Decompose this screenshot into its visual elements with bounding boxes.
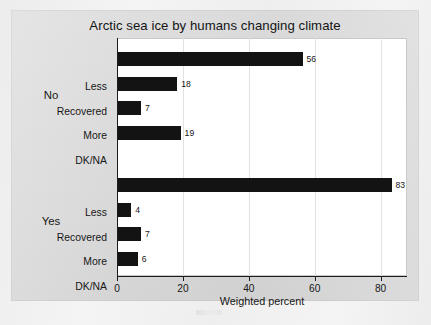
chart-title: Arctic sea ice by humans changing climat… bbox=[11, 18, 419, 33]
category-label-dk-na: DK/NA bbox=[7, 155, 107, 167]
bar-row: 4 bbox=[117, 203, 407, 217]
bar-value-label: 4 bbox=[135, 204, 140, 216]
bar[interactable] bbox=[118, 126, 181, 140]
x-tick-mark bbox=[117, 277, 118, 281]
x-axis-title: Weighted percent bbox=[117, 295, 407, 307]
bar[interactable] bbox=[118, 178, 392, 192]
bar[interactable] bbox=[118, 101, 141, 115]
bar[interactable] bbox=[118, 77, 177, 91]
x-tick-mark bbox=[315, 277, 316, 281]
value-axis-spine bbox=[117, 276, 407, 277]
plot-area: 561871983476 bbox=[117, 38, 407, 276]
x-tick-label: 80 bbox=[366, 282, 396, 295]
bar-row: 19 bbox=[117, 126, 407, 140]
bar[interactable] bbox=[118, 52, 303, 66]
scan-artifact bbox=[196, 310, 222, 315]
category-label-recovered: Recovered bbox=[7, 232, 107, 244]
x-tick-mark bbox=[249, 277, 250, 281]
x-tick-label: 60 bbox=[300, 282, 330, 295]
bar[interactable] bbox=[118, 203, 131, 217]
bar-value-label: 7 bbox=[145, 102, 150, 114]
bar-value-label: 6 bbox=[142, 253, 147, 265]
chart-figure-panel: Arctic sea ice by humans changing climat… bbox=[11, 10, 419, 301]
x-tick-label: 0 bbox=[102, 282, 132, 295]
bar-value-label: 56 bbox=[307, 53, 317, 65]
bar-row: 7 bbox=[117, 227, 407, 241]
bar-row: 56 bbox=[117, 52, 407, 66]
bar[interactable] bbox=[118, 227, 141, 241]
bar-row: 6 bbox=[117, 252, 407, 266]
category-label-dk-na: DK/NA bbox=[7, 281, 107, 293]
x-tick-mark bbox=[381, 277, 382, 281]
bar-value-label: 19 bbox=[185, 127, 195, 139]
category-label-recovered: Recovered bbox=[7, 106, 107, 118]
bar-row: 83 bbox=[117, 178, 407, 192]
category-label-more: More bbox=[7, 130, 107, 142]
bar[interactable] bbox=[118, 252, 138, 266]
bar-value-label: 18 bbox=[181, 78, 191, 90]
x-tick-label: 20 bbox=[168, 282, 198, 295]
bar-row: 7 bbox=[117, 101, 407, 115]
group-label-yes: Yes bbox=[23, 215, 79, 228]
bar-row: 18 bbox=[117, 77, 407, 91]
group-label-no: No bbox=[23, 89, 79, 102]
bar-value-label: 83 bbox=[396, 179, 406, 191]
category-axis-labels: LessRecoveredMoreDK/NALessRecoveredMoreD… bbox=[11, 38, 113, 276]
screenshot-page: Arctic sea ice by humans changing climat… bbox=[0, 0, 431, 325]
x-tick-label: 40 bbox=[234, 282, 264, 295]
x-tick-mark bbox=[183, 277, 184, 281]
bar-value-label: 7 bbox=[145, 228, 150, 240]
category-label-more: More bbox=[7, 256, 107, 268]
